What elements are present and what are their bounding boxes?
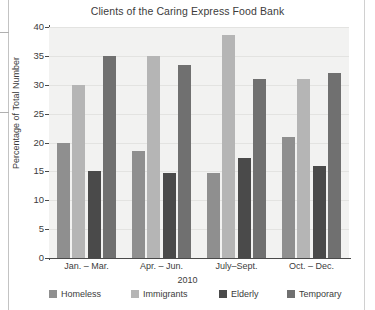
bar-group [49, 27, 124, 258]
plot-area [49, 27, 349, 258]
bar [207, 173, 220, 258]
legend-label: Immigrants [143, 289, 188, 299]
y-axis-tick-label: 5 [10, 223, 44, 234]
y-axis-tick-label: 0 [10, 252, 44, 263]
bar-group [274, 27, 349, 258]
bar [103, 56, 116, 258]
x-axis-tick-label: Jan. – Mar. [49, 261, 124, 271]
y-axis-tick-label: 20 [10, 137, 44, 148]
bar [238, 158, 251, 258]
page-edge-line-right [364, 0, 365, 310]
y-axis-tick-labels: 0510152025303540 [0, 27, 44, 258]
y-axis-tick-label: 35 [10, 50, 44, 61]
bar [178, 65, 191, 258]
x-axis-title: 2010 [0, 275, 375, 285]
legend-label: Temporary [299, 289, 342, 299]
legend-item: Homeless [49, 289, 101, 299]
y-axis-tick-label: 15 [10, 165, 44, 176]
legend-item: Temporary [287, 289, 342, 299]
bar [253, 79, 266, 258]
chart-legend: HomelessImmigrantsElderlyTemporary [49, 289, 351, 303]
y-axis-tick-label: 10 [10, 194, 44, 205]
x-axis-tick-labels: Jan. – Mar.Apr. – Jun.July–Sept.Oct. – D… [49, 261, 351, 275]
y-axis-tick-label: 25 [10, 108, 44, 119]
legend-item: Immigrants [131, 289, 188, 299]
bar-group [199, 27, 274, 258]
legend-label: Homeless [61, 289, 101, 299]
legend-swatch-icon [287, 290, 295, 298]
y-axis-tick-label: 40 [10, 21, 44, 32]
legend-swatch-icon [219, 290, 227, 298]
bar [297, 79, 310, 258]
bar [222, 35, 235, 258]
legend-swatch-icon [49, 290, 57, 298]
bar-group [124, 27, 199, 258]
bar [57, 143, 70, 259]
bar [147, 56, 160, 258]
bar [132, 151, 145, 258]
bar [163, 173, 176, 258]
bar [88, 171, 101, 258]
bar [328, 73, 341, 258]
bar-chart-figure: Clients of the Caring Express Food Bank … [0, 0, 375, 310]
x-axis-line [49, 258, 351, 259]
legend-swatch-icon [131, 290, 139, 298]
x-axis-tick-label: Oct. – Dec. [274, 261, 349, 271]
chart-title: Clients of the Caring Express Food Bank [0, 5, 375, 17]
x-axis-tick-label: July–Sept. [199, 261, 274, 271]
legend-item: Elderly [219, 289, 259, 299]
x-axis-tick-label: Apr. – Jun. [124, 261, 199, 271]
bar [282, 137, 295, 258]
bar [72, 85, 85, 258]
bars-layer [49, 27, 349, 258]
y-axis-tick-label: 30 [10, 79, 44, 90]
bar [313, 166, 326, 258]
legend-label: Elderly [231, 289, 259, 299]
